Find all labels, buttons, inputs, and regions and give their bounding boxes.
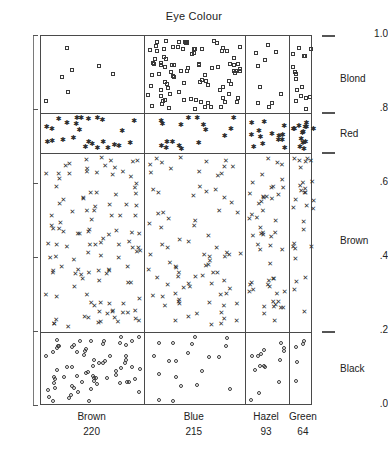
data-point: ✱ — [83, 143, 89, 150]
data-point: ✕ — [269, 195, 275, 202]
data-point: ✱ — [276, 137, 282, 144]
data-point: ✕ — [207, 253, 213, 260]
data-point: ✕ — [216, 208, 222, 215]
data-point: ✕ — [128, 174, 134, 181]
data-point: ✱ — [185, 114, 191, 121]
data-point: ✱ — [261, 118, 267, 125]
y-tick — [33, 257, 38, 258]
data-point — [162, 55, 166, 59]
data-point: ✕ — [116, 242, 122, 249]
data-point — [84, 347, 88, 351]
data-point — [60, 75, 64, 79]
data-point: ✕ — [203, 262, 209, 269]
data-point: ✕ — [106, 232, 112, 239]
data-point — [193, 107, 197, 111]
data-point: ✕ — [308, 244, 314, 251]
data-point: ✱ — [179, 145, 185, 152]
data-point: ✱ — [228, 125, 234, 132]
band-tick — [322, 112, 335, 114]
data-point: ✕ — [84, 291, 90, 298]
data-point: ✕ — [94, 169, 100, 176]
data-point: ✕ — [69, 208, 75, 215]
data-point — [166, 86, 170, 90]
y-tick-label: 1.0 — [360, 28, 388, 39]
data-point: ✱ — [282, 145, 288, 152]
data-point: ✕ — [120, 301, 126, 308]
data-point — [238, 67, 242, 71]
data-point: ✱ — [77, 126, 83, 133]
data-point — [197, 62, 201, 66]
data-point: ✕ — [254, 215, 260, 222]
data-point: ✕ — [185, 313, 191, 320]
data-point: ✕ — [230, 163, 236, 170]
data-point: ✕ — [292, 155, 298, 162]
column-divider — [144, 36, 145, 404]
data-point — [225, 49, 229, 53]
data-point: ✕ — [85, 249, 91, 256]
data-point: ✕ — [235, 210, 241, 217]
data-point — [254, 51, 258, 55]
x-category-count: 220 — [52, 426, 132, 437]
data-point: ✕ — [261, 310, 267, 317]
data-point: ✕ — [260, 193, 266, 200]
data-point — [172, 75, 176, 79]
data-point — [75, 374, 79, 378]
data-point: ✕ — [270, 299, 276, 306]
data-point: ✕ — [280, 305, 286, 312]
data-point: ✕ — [227, 285, 233, 292]
data-point — [167, 359, 171, 363]
column-divider — [289, 36, 290, 404]
data-point: ✕ — [186, 238, 192, 245]
data-point — [176, 45, 180, 49]
data-point — [118, 381, 122, 385]
data-point: ✱ — [248, 132, 254, 139]
data-point: ✕ — [75, 267, 81, 274]
data-point — [170, 63, 174, 67]
data-point — [279, 92, 283, 96]
data-point — [80, 380, 84, 384]
data-point — [182, 98, 186, 102]
data-point: ✕ — [162, 303, 168, 310]
y-tick-label: .2 — [360, 324, 388, 335]
data-point — [67, 396, 71, 400]
data-point — [279, 341, 283, 345]
data-point: ✕ — [67, 161, 73, 168]
data-point: ✕ — [147, 161, 153, 168]
data-point: ✕ — [125, 264, 131, 271]
data-point: ✕ — [134, 158, 140, 165]
data-point: ✕ — [112, 314, 118, 321]
data-point — [70, 384, 74, 388]
data-point — [111, 72, 115, 76]
data-point — [238, 45, 242, 49]
data-point: ✕ — [209, 280, 215, 287]
data-point: ✕ — [160, 210, 166, 217]
data-point — [82, 353, 86, 357]
data-point: ✱ — [119, 127, 125, 134]
data-point: ✕ — [98, 239, 104, 246]
data-point — [119, 366, 123, 370]
data-point — [55, 368, 59, 372]
data-point — [291, 52, 295, 56]
data-point — [249, 398, 253, 402]
data-point: ✕ — [154, 155, 160, 162]
data-point: ✕ — [221, 194, 227, 201]
data-point: ✕ — [279, 162, 285, 169]
data-point — [78, 339, 82, 343]
band-label-red: Red — [340, 128, 358, 139]
data-point: ✕ — [200, 272, 206, 279]
data-point — [114, 373, 118, 377]
data-point — [163, 98, 167, 102]
data-point: ✕ — [266, 277, 272, 284]
data-point: ✕ — [134, 181, 140, 188]
data-point: ✕ — [88, 300, 94, 307]
data-point: ✱ — [71, 135, 77, 142]
data-point — [70, 365, 74, 369]
data-point — [118, 341, 122, 345]
data-point — [186, 351, 190, 355]
data-point — [155, 49, 159, 53]
data-point: ✕ — [250, 232, 256, 239]
data-point: ✱ — [160, 120, 166, 127]
data-point — [179, 69, 183, 73]
data-point: ✕ — [43, 291, 49, 298]
data-point: ✱ — [100, 117, 106, 124]
